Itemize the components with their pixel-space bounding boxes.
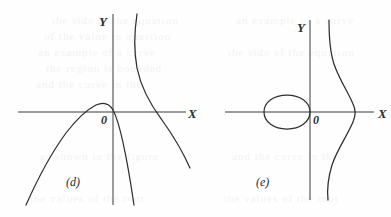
panel-e-curve-s-branch	[328, 20, 356, 200]
panel-d-curve-right-branch	[135, 14, 190, 168]
panel-d-y-axis-label: Y	[99, 14, 108, 29]
panel-e: Y X 0 (e)	[225, 20, 387, 200]
figure-canvas: Y X 0 (d) Y X 0	[0, 0, 391, 217]
panel-d-label: (d)	[66, 175, 80, 189]
panel-e-x-axis-label: X	[377, 106, 387, 121]
panel-d-origin-label: 0	[101, 113, 107, 127]
panel-d-x-axis-label: X	[187, 106, 197, 121]
panel-d: Y X 0 (d)	[18, 14, 197, 205]
panel-e-origin-label: 0	[313, 113, 319, 127]
panel-d-curve-arch	[26, 103, 134, 205]
panel-e-y-axis-label: Y	[297, 20, 306, 35]
figure-page: the side of the equation of the value in…	[0, 0, 391, 217]
panel-e-label: (e)	[256, 175, 269, 189]
